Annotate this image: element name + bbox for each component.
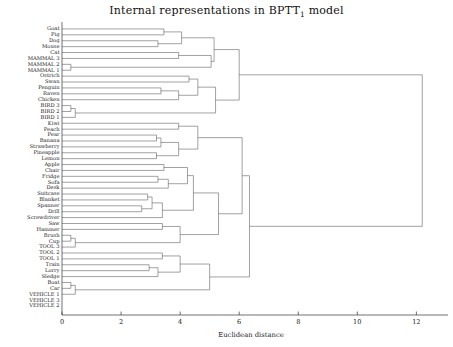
- dendrogram-link: [62, 135, 157, 141]
- dendrogram-link: [62, 285, 75, 294]
- dendrogram-link: [164, 168, 188, 184]
- x-axis-tick-label: 12: [412, 318, 420, 326]
- dendrogram-link: [75, 87, 215, 113]
- dendrogram-link: [179, 79, 198, 95]
- x-axis-tick-label: 8: [296, 318, 300, 326]
- dendrogram-link: [62, 268, 158, 277]
- x-axis-title: Euclidean distance: [218, 331, 283, 339]
- dendrogram-link: [75, 226, 180, 242]
- dendrogram-link: [198, 138, 242, 214]
- leaf-label: VEHICLE 2: [28, 302, 59, 308]
- dendrogram-links: [62, 29, 422, 294]
- dendrogram-link: [62, 165, 164, 171]
- x-axis-tick-label: 2: [119, 318, 123, 326]
- dendrogram-link: [62, 138, 161, 147]
- dendrogram-link: [62, 206, 142, 212]
- dendrogram-link: [158, 256, 180, 272]
- dendrogram-link: [180, 193, 218, 235]
- dendrogram-link: [62, 179, 168, 188]
- dendrogram-link: [62, 123, 179, 129]
- dendrogram-plot: GoatPigDogMouseCatMAMMAL 3MAMMAL 2MAMMAL…: [0, 0, 453, 347]
- dendrogram-link: [62, 106, 71, 112]
- dendrogram-link: [142, 197, 152, 209]
- x-axis-tick-label: 0: [60, 318, 64, 326]
- dendrogram-link: [62, 282, 71, 288]
- dendrogram-link: [62, 64, 71, 70]
- dendrogram-link: [62, 88, 161, 94]
- dendrogram-link: [210, 176, 250, 277]
- dendrogram-link: [62, 76, 189, 82]
- x-axis-tick-label: 4: [178, 318, 182, 326]
- dendrogram-link: [75, 264, 209, 290]
- leaf-labels: GoatPigDogMouseCatMAMMAL 3MAMMAL 2MAMMAL…: [27, 25, 60, 308]
- dendrogram-link: [62, 238, 75, 247]
- x-axis-tick-label: 6: [237, 318, 241, 326]
- dendrogram-link: [158, 32, 182, 44]
- dendrogram-link: [182, 38, 214, 62]
- x-axis-tick-label: 10: [353, 318, 361, 326]
- dendrogram-link: [157, 142, 179, 155]
- dendrogram-link: [179, 126, 198, 149]
- dendrogram-link: [62, 203, 162, 218]
- dendrogram-link: [62, 235, 71, 241]
- dendrogram-link: [62, 29, 164, 35]
- dendrogram-link: [62, 253, 162, 259]
- dendrogram-link: [62, 153, 157, 159]
- dendrogram-link: [62, 265, 149, 271]
- dendrogram-link: [214, 50, 239, 100]
- dendrogram-link: [62, 41, 158, 47]
- dendrogram-link: [62, 53, 179, 59]
- dendrogram-link: [62, 224, 162, 230]
- dendrogram-figure: Internal representations in BPTT1 model …: [0, 0, 453, 347]
- dendrogram-link: [162, 176, 193, 211]
- dendrogram-link: [71, 55, 211, 67]
- dendrogram-link: [239, 75, 422, 227]
- x-axis: 024681012Euclidean distance: [60, 22, 448, 339]
- dendrogram-link: [62, 176, 158, 182]
- dendrogram-link: [62, 194, 148, 200]
- dendrogram-link: [62, 109, 75, 118]
